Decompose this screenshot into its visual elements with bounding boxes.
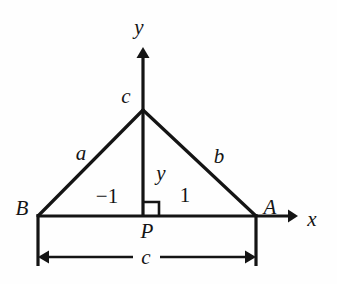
x-axis-label: x xyxy=(307,209,316,230)
coordinate-label-negative-one: −1 xyxy=(96,186,118,207)
right-angle-marker xyxy=(143,202,159,216)
y-axis xyxy=(137,47,150,216)
side-label-a: a xyxy=(76,143,87,164)
altitude-label-y: y xyxy=(156,163,165,184)
dimension-arrowhead-right xyxy=(245,251,256,264)
geometry-figure: y x c a b y −1 1 B A P c xyxy=(0,0,337,284)
side-label-b: b xyxy=(214,146,225,167)
vertex-label-b: B xyxy=(16,198,29,219)
diagram-canvas xyxy=(0,0,337,284)
base-dimension-label-c: c xyxy=(141,247,150,268)
vertex-label-a: A xyxy=(264,197,277,218)
apex-label-c: c xyxy=(121,86,130,107)
coordinate-label-one: 1 xyxy=(180,185,191,206)
x-axis-arrowhead xyxy=(288,210,298,223)
dimension-arrowhead-left xyxy=(38,251,49,264)
triangle-side-a xyxy=(38,110,143,216)
y-axis-arrowhead xyxy=(137,47,150,58)
vertex-label-p: P xyxy=(141,221,154,242)
y-axis-label: y xyxy=(134,17,143,38)
x-axis xyxy=(38,210,298,223)
